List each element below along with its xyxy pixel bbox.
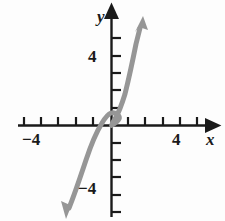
graph-canvas: [0, 0, 225, 221]
curve-arrow-down: [61, 199, 74, 219]
y-tick-label-4: 4: [88, 48, 97, 65]
y-axis-label: y: [97, 8, 105, 25]
x-tick-label-negative-4: −4: [22, 131, 40, 148]
cubic-curve: [61, 16, 148, 219]
cubic-function-graph: y x 4 −4 4 −4: [0, 0, 225, 221]
x-tick-label-4: 4: [172, 131, 181, 148]
y-tick-label-negative-4: −4: [78, 180, 96, 197]
x-axis-label: x: [206, 131, 215, 148]
